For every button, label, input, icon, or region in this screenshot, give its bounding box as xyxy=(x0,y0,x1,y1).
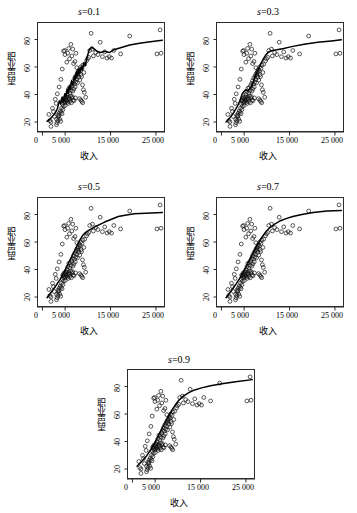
panel-title-s01: s=0.1 xyxy=(0,6,178,17)
x-tick-0: 0 xyxy=(124,484,128,492)
scatter-point xyxy=(209,399,213,403)
y-tick-20: 20 xyxy=(24,118,32,126)
scatter-point xyxy=(128,34,132,38)
x-axis-label: 收入 xyxy=(179,149,357,162)
y-tick-40: 40 xyxy=(114,438,122,446)
scatter-point xyxy=(249,229,253,233)
y-tick-80: 80 xyxy=(203,37,211,45)
scatter-point xyxy=(49,125,53,129)
y-axis-label: 职业声望 xyxy=(185,52,194,84)
scatter-point xyxy=(236,85,240,89)
scatter-point xyxy=(60,67,64,71)
scatter-svg-s03 xyxy=(217,23,345,133)
x-tick-15000: 15 000 xyxy=(187,484,209,492)
scatter-point xyxy=(81,83,85,87)
panel-title-s03: s=0.3 xyxy=(179,6,357,17)
scatter-point xyxy=(59,77,63,81)
scatter-point xyxy=(260,83,264,87)
x-tick-5000: 5 000 xyxy=(52,312,70,320)
y-tick-80: 80 xyxy=(24,37,32,45)
scatter-point xyxy=(277,40,281,44)
scatter-point xyxy=(174,442,178,446)
scatter-point xyxy=(89,206,93,210)
scatter-point xyxy=(119,227,123,231)
y-axis-label: 职业声望 xyxy=(185,227,194,259)
scatter-point xyxy=(57,85,61,89)
scatter-point xyxy=(54,102,58,106)
scatter-point xyxy=(65,60,69,64)
scatter-point xyxy=(81,258,85,262)
scatter-point xyxy=(238,77,242,81)
scatter-point xyxy=(233,102,237,106)
scatter-point xyxy=(234,92,238,96)
scatter-point xyxy=(270,229,274,233)
scatter-point xyxy=(103,225,107,229)
scatter-point xyxy=(228,125,232,129)
scatter-point xyxy=(232,97,236,101)
scatter-point xyxy=(249,398,253,402)
scatter-points xyxy=(226,203,342,303)
scatter-svg-s07 xyxy=(217,198,345,308)
x-tick-15000: 15 000 xyxy=(97,137,119,145)
scatter-point xyxy=(82,246,86,250)
scatter-point xyxy=(191,402,195,406)
scatter-point xyxy=(181,401,185,405)
plot-area-s03 xyxy=(216,22,344,132)
y-axis-label: 职业声望 xyxy=(96,398,105,430)
scatter-point xyxy=(82,71,86,75)
panel-s07: s=0.7 职业声望 80 60 40 20 0 5 000 15 000 25… xyxy=(179,175,357,350)
scatter-point xyxy=(69,217,73,221)
scatter-point xyxy=(188,387,192,391)
scatter-point xyxy=(248,375,252,379)
x-tick-5000: 5 000 xyxy=(231,137,249,145)
scatter-point xyxy=(261,246,265,250)
x-tick-0: 0 xyxy=(34,137,38,145)
y-axis-label: 职业声望 xyxy=(6,227,15,259)
scatter-point xyxy=(74,226,78,230)
scatter-point xyxy=(246,222,250,226)
scatter-point xyxy=(101,230,105,234)
y-tick-80: 80 xyxy=(203,212,211,220)
plot-area-s09 xyxy=(127,369,255,479)
plot-area-s01 xyxy=(37,22,165,132)
scatter-point xyxy=(112,224,116,228)
scatter-point xyxy=(248,217,252,221)
scatter-point xyxy=(91,229,95,233)
scatter-point xyxy=(89,31,93,35)
scatter-point xyxy=(67,222,71,226)
scatter-point xyxy=(253,51,257,55)
scatter-point xyxy=(226,113,230,117)
scatter-point xyxy=(236,260,240,264)
scatter-point xyxy=(67,47,71,51)
scatter-point xyxy=(238,252,242,256)
scatter-point xyxy=(98,215,102,219)
scatter-point xyxy=(337,203,341,207)
scatter-point xyxy=(202,396,206,400)
span-value: =0.1 xyxy=(82,6,100,17)
scatter-point xyxy=(74,51,78,55)
x-tick-25000: 25 000 xyxy=(142,312,164,320)
scatter-point xyxy=(179,378,183,382)
scatter-point xyxy=(250,222,254,226)
scatter-svg-s01 xyxy=(38,23,166,133)
x-axis-label: 收入 xyxy=(0,324,178,337)
scatter-point xyxy=(159,226,163,230)
span-value: =0.7 xyxy=(261,181,279,192)
plot-area-s07 xyxy=(216,197,344,307)
x-tick-15000: 15 000 xyxy=(97,312,119,320)
scatter-point xyxy=(261,71,265,75)
scatter-point xyxy=(47,113,51,117)
y-tick-marks xyxy=(33,198,39,308)
x-tick-15000: 15 000 xyxy=(276,137,298,145)
scatter-svg-s09 xyxy=(128,370,256,480)
scatter-point xyxy=(254,66,258,70)
y-tick-40: 40 xyxy=(24,266,32,274)
scatter-point xyxy=(147,432,151,436)
scatter-point xyxy=(91,54,95,58)
scatter-point xyxy=(158,203,162,207)
scatter-points xyxy=(47,203,163,303)
span-value: =0.9 xyxy=(172,354,190,365)
y-tick-20: 20 xyxy=(114,465,122,473)
scatter-point xyxy=(298,227,302,231)
y-tick-80: 80 xyxy=(114,384,122,392)
